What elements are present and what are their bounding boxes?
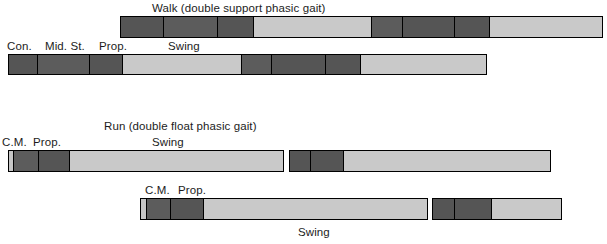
bar-segment-mid-stance — [163, 16, 218, 38]
bar-segment-mid-stance — [37, 54, 90, 75]
bar-segment-contact-mid — [146, 198, 171, 220]
bar-segment-propulsion — [325, 54, 361, 75]
label-walk-swing: Swing — [168, 40, 200, 52]
bar-segment-propulsion — [89, 54, 123, 75]
bar-segment-propulsion — [454, 198, 491, 220]
walk-bar-top — [120, 16, 607, 38]
label-run-bottom-propulsion: Prop. — [178, 184, 206, 196]
bar-segment-contact-mid — [432, 198, 456, 220]
bar-segment-swing — [343, 150, 551, 172]
bar-segment-propulsion — [38, 150, 71, 172]
walk-bar-bottom — [8, 54, 494, 75]
bar-segment-swing — [491, 198, 562, 220]
bar-segment-contact — [8, 54, 38, 75]
bar-segment-swing — [203, 198, 428, 220]
label-run-top-swing: Swing — [152, 136, 184, 148]
bar-segment-contact — [120, 16, 164, 38]
walk-section-title: Walk (double support phasic gait) — [152, 2, 326, 14]
label-run-bottom-contact-mid: C.M. — [145, 184, 170, 196]
label-walk-contact: Con. — [7, 40, 32, 52]
bar-segment-mid-stance — [402, 16, 455, 38]
bar-segment-swing — [489, 16, 603, 38]
bar-segment-contact-mid — [13, 150, 39, 172]
label-run-top-propulsion: Prop. — [33, 136, 61, 148]
bar-segment-contact — [241, 54, 272, 75]
bar-segment-swing — [360, 54, 487, 75]
run-bar-bottom — [140, 198, 567, 220]
bar-segment-contact-mid — [289, 150, 311, 172]
bar-segment-swing — [69, 150, 284, 172]
label-run-top-contact-mid: C.M. — [2, 136, 27, 148]
run-section-title: Run (double float phasic gait) — [104, 120, 257, 132]
bar-segment-propulsion — [454, 16, 490, 38]
bar-segment-propulsion — [310, 150, 344, 172]
bar-segment-propulsion — [217, 16, 254, 38]
bar-segment-propulsion — [170, 198, 205, 220]
bar-segment-mid-stance — [271, 54, 326, 75]
bar-segment-swing — [253, 16, 372, 38]
bar-segment-contact — [371, 16, 403, 38]
label-run-bottom-swing: Swing — [298, 226, 330, 238]
run-bar-top — [8, 150, 556, 172]
bar-segment-swing — [122, 54, 241, 75]
label-walk-propulsion: Prop. — [99, 40, 127, 52]
label-walk-mid-stance: Mid. St. — [45, 40, 85, 52]
